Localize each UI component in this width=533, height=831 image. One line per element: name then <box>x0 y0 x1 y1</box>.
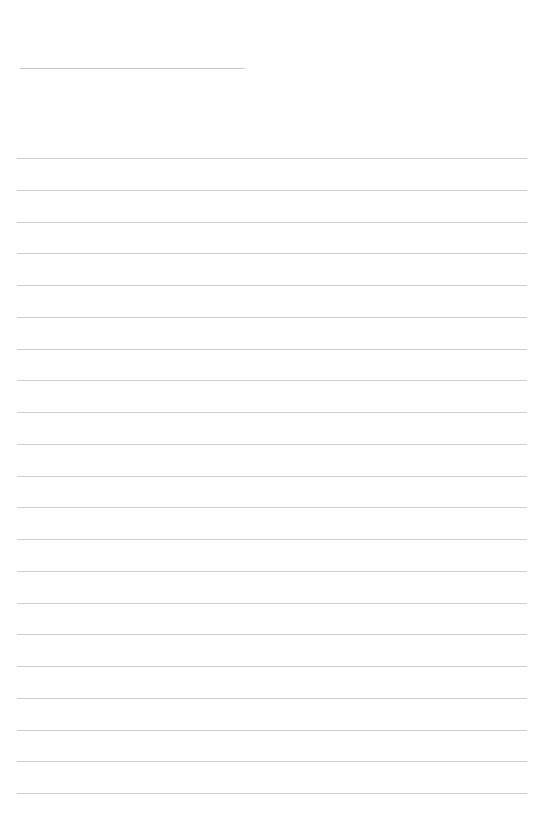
header-line <box>20 68 245 69</box>
ruled-line <box>17 412 527 413</box>
ruled-line <box>17 603 527 604</box>
ruled-line <box>17 380 527 381</box>
ruled-line <box>17 222 527 223</box>
ruled-line <box>17 158 527 159</box>
ruled-line <box>17 507 527 508</box>
ruled-line <box>17 285 527 286</box>
ruled-line <box>17 571 527 572</box>
ruled-line <box>17 666 527 667</box>
ruled-line <box>17 634 527 635</box>
ruled-line <box>17 698 527 699</box>
ruled-line <box>17 793 527 794</box>
ruled-line <box>17 317 527 318</box>
ruled-line <box>17 349 527 350</box>
ruled-line <box>17 730 527 731</box>
ruled-line <box>17 761 527 762</box>
ruled-line <box>17 253 527 254</box>
ruled-line <box>17 444 527 445</box>
ruled-line <box>17 190 527 191</box>
ruled-line <box>17 539 527 540</box>
ruled-line <box>17 476 527 477</box>
